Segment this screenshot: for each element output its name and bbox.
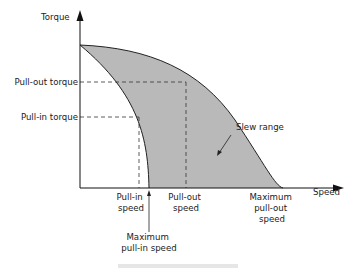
pull-in-torque-label: Pull-in torque — [21, 112, 78, 122]
y-axis-arrow-icon — [77, 10, 84, 21]
cut-off-caption — [118, 264, 238, 268]
slew-range-label: Slew range — [236, 122, 284, 132]
torque-speed-diagram: Torque Speed Pull-out torque Pull-in tor… — [0, 0, 350, 268]
max-pull-out-speed-label: Maximum pull-out speed — [249, 192, 294, 224]
x-axis-label: Speed — [313, 187, 340, 197]
y-axis-label: Torque — [40, 12, 70, 22]
max-pull-in-speed-label: Maximum pull-in speed — [121, 232, 176, 253]
slew-range-region — [80, 45, 283, 188]
pull-out-torque-label: Pull-out torque — [14, 77, 78, 87]
pull-in-speed-label: Pull-in speed — [117, 192, 146, 213]
max-pull-in-arrow-icon — [147, 190, 151, 196]
pull-out-speed-label: Pull-out speed — [168, 192, 203, 213]
